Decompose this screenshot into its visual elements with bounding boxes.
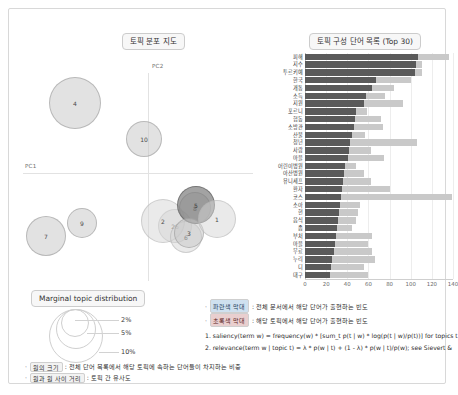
marginal-label-5: 5% (121, 329, 131, 337)
x-tick-label: 60 (365, 281, 372, 287)
x-tick-label: 140 (448, 281, 458, 287)
bar-row[interactable]: 좀 (305, 225, 453, 231)
bar-topic-frequency (305, 256, 332, 262)
bar-row[interactable]: 사람 (305, 147, 453, 153)
term-label: 청년 (293, 138, 303, 146)
bar-row[interactable]: 지원 (305, 100, 453, 106)
marginal-leader-2 (75, 320, 119, 321)
bar-row[interactable]: 소방관 (305, 124, 453, 130)
bullet-icon: · (25, 363, 27, 370)
x-tick-label: 100 (406, 281, 416, 287)
legend-text: : 전체 문서에서 해당 단어가 출현하는 빈도 (252, 301, 368, 312)
bar-topic-frequency (305, 124, 354, 130)
term-label: 아산병원 (283, 169, 303, 177)
bar-row[interactable]: 디 (305, 264, 453, 270)
marginal-label-2: 2% (121, 316, 131, 324)
topic-bubble-label: 9 (80, 220, 84, 227)
x-tick-label: 80 (386, 281, 393, 287)
bar-row[interactable]: 코스 (305, 194, 453, 200)
term-label: 투르키예 (283, 68, 303, 76)
bar-row[interactable]: 피해 (305, 54, 453, 60)
bar-row[interactable]: 투르키예 (305, 69, 453, 75)
term-label: 마을 (293, 240, 303, 248)
bar-row[interactable]: 음식 (305, 217, 453, 223)
bar-topic-frequency (305, 132, 352, 138)
bar-row[interactable]: 무료 (305, 248, 453, 254)
bar-row[interactable]: 어린이병원 (305, 163, 453, 169)
term-label: 협동 (293, 115, 303, 123)
topic-bubble[interactable]: 10 (126, 121, 162, 157)
bar-row[interactable]: 부처 (305, 233, 453, 239)
topic-bubble[interactable]: 1 (198, 200, 236, 238)
term-label: 소아 (293, 201, 303, 209)
bar-row[interactable]: 협동 (305, 116, 453, 122)
bar-row[interactable]: 누리 (305, 256, 453, 262)
term-label: 지원 (293, 99, 303, 107)
map-note: ·원의 크기 : 전체 단어 목록에서 해당 토픽에 속하는 단어들이 차지하는… (25, 361, 285, 372)
bar-topic-frequency (305, 77, 376, 83)
bar-topic-frequency (305, 225, 337, 231)
bar-row[interactable]: 마을 (305, 155, 453, 161)
bullet-icon: · (205, 301, 207, 312)
formula-line: 2. relevance(term w | topic t) = λ * p(w… (205, 342, 455, 354)
term-bar-title: 토픽 구성 단어 목록 (Top 30) (309, 33, 421, 50)
marginal-circle-2 (61, 309, 89, 337)
bar-topic-frequency (305, 209, 339, 215)
x-axis-line (305, 279, 453, 280)
map-notes: ·원의 크기 : 전체 단어 목록에서 해당 토픽에 속하는 단어들이 차지하는… (25, 361, 285, 383)
marginal-label-10: 10% (121, 348, 135, 356)
term-frequency-chart[interactable]: 피해지수투르키예한국개통소득지원포르니협동소방관산불청년사람마을어린이병원아산병… (259, 53, 455, 285)
bar-row[interactable]: 환자 (305, 186, 453, 192)
term-label: 마을 (293, 154, 303, 162)
term-label: 피해 (293, 53, 303, 61)
bar-topic-frequency (305, 202, 340, 208)
bar-row[interactable]: 대구 (305, 272, 453, 278)
bar-topic-frequency (305, 100, 364, 106)
gridline (453, 53, 454, 279)
bullet-icon: · (205, 315, 207, 326)
bar-row[interactable]: 산불 (305, 132, 453, 138)
bar-topic-frequency (305, 241, 335, 247)
legend-swatch: 파란색 막대 (210, 299, 249, 313)
bar-topic-frequency (305, 139, 350, 145)
topic-bubble[interactable]: 7 (26, 216, 66, 256)
note-tag: 원과 원 사이 거리 (30, 373, 85, 383)
bar-row[interactable]: 한국 (305, 77, 453, 83)
bar-plot-area: 피해지수투르키예한국개통소득지원포르니협동소방관산불청년사람마을어린이병원아산병… (305, 53, 453, 279)
pc1-axis-label: PC1 (25, 163, 36, 169)
bar-topic-frequency (305, 248, 334, 254)
bar-topic-frequency (305, 147, 349, 153)
term-label: 환자 (293, 185, 303, 193)
bar-row[interactable]: 지수 (305, 61, 453, 67)
term-label: 부처 (293, 232, 303, 240)
bar-row[interactable]: 아산병원 (305, 170, 453, 176)
term-label: 한국 (293, 76, 303, 84)
topic-bubble-label: 2 (161, 218, 165, 225)
bar-row[interactable]: 소득 (305, 93, 453, 99)
bar-topic-frequency (305, 264, 331, 270)
topic-bubble-label: 5 (194, 202, 198, 209)
bar-row[interactable]: 유니세프 (305, 178, 453, 184)
bar-row[interactable]: 개통 (305, 85, 453, 91)
formula-line: 1. saliency(term w) = frequency(w) * [su… (205, 330, 455, 342)
topic-bubble[interactable]: 4 (49, 77, 101, 129)
bar-row[interactable]: 포르니 (305, 108, 453, 114)
pc2-axis (148, 73, 149, 281)
term-label: 개통 (293, 84, 303, 92)
note-tag: 원의 크기 (30, 362, 63, 372)
bar-row[interactable]: 마을 (305, 241, 453, 247)
legend-item: ·파란색 막대: 전체 문서에서 해당 단어가 출현하는 빈도 (205, 299, 455, 313)
bar-topic-frequency (305, 61, 416, 67)
bar-row[interactable]: 현 (305, 209, 453, 215)
bar-row[interactable]: 소아 (305, 202, 453, 208)
topic-distribution-map[interactable]: PC2 PC1 4107926268531 (23, 51, 253, 281)
bar-topic-frequency (305, 217, 338, 223)
marginal-leader-10 (99, 352, 119, 353)
topic-bubble-label: 3 (187, 230, 191, 237)
topic-bubble[interactable]: 9 (67, 208, 97, 238)
bar-row[interactable]: 청년 (305, 139, 453, 145)
term-label: 음식 (293, 216, 303, 224)
bar-topic-frequency (305, 170, 344, 176)
map-note: ·원과 원 사이 거리 : 토픽 간 유사도 (25, 372, 285, 383)
pc1-axis (23, 173, 253, 174)
